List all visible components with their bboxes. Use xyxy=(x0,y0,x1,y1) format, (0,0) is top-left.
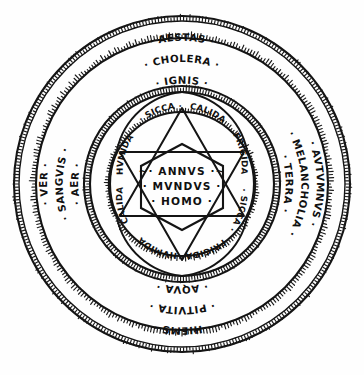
season-ver: · VER · xyxy=(38,162,51,206)
core-line-annvs: ~· ANNVS ·~ xyxy=(138,165,225,177)
core-line-mvndvs: · MVNDVS · xyxy=(143,180,222,192)
core-hexagon-text: ~· ANNVS ·~ · MVNDVS · · HOMO · xyxy=(138,165,225,207)
outer-group-bottom: · HIEMS · · PITVITA · · AQVA · xyxy=(148,281,217,336)
cosmological-rota-diagram: · AESTAS · · CHOLERA · · IGNIS · · AVTVM… xyxy=(0,0,364,375)
core-line-homo: · HOMO · xyxy=(151,195,213,207)
